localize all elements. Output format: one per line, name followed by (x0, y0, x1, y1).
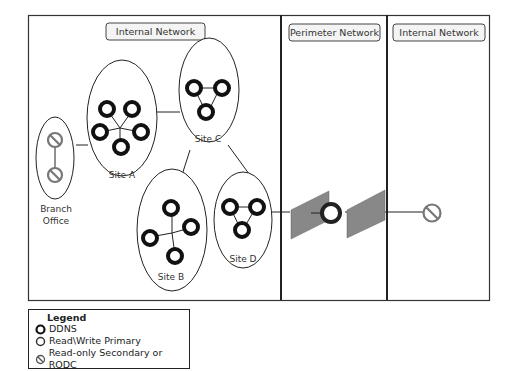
zone-label-internal: Internal Network (106, 23, 205, 40)
legend-item-ddns: DDNS (35, 323, 189, 335)
svg-text:Internal Network: Internal Network (399, 27, 479, 38)
legend-item-rodc: Read-only Secondary or RODC (35, 347, 189, 371)
perimeter-zone (291, 190, 385, 239)
svg-text:Site D: Site D (229, 254, 256, 264)
legend-title: Legend (35, 312, 189, 323)
firewall-icon (347, 190, 385, 238)
svg-text:Site C: Site C (195, 134, 221, 144)
external-rodc (424, 205, 441, 222)
rodc-icon (35, 354, 46, 365)
zone-label-perimeter: Perimeter Network (289, 24, 380, 41)
legend: Legend DDNS Read\Write Primary Read-only… (28, 309, 190, 369)
svg-text:Branch: Branch (40, 204, 72, 214)
legend-item-primary: Read\Write Primary (35, 335, 189, 347)
site-b: Site B (137, 169, 207, 291)
site-c: Site C (179, 38, 239, 144)
svg-text:Office: Office (43, 216, 70, 226)
read-write-primary-icon (322, 204, 340, 222)
svg-text:Site A: Site A (109, 170, 136, 180)
zone-label-internal-2: Internal Network (393, 24, 485, 41)
site-a: Site A (87, 60, 157, 180)
read-write-primary-icon (35, 336, 46, 347)
site-d: Site D (214, 172, 272, 268)
branch-office: Branch Office (36, 117, 74, 226)
svg-text:Site B: Site B (158, 272, 184, 282)
svg-text:Perimeter Network: Perimeter Network (290, 27, 380, 38)
ddns-icon (35, 324, 46, 335)
svg-text:Internal Network: Internal Network (116, 26, 196, 37)
